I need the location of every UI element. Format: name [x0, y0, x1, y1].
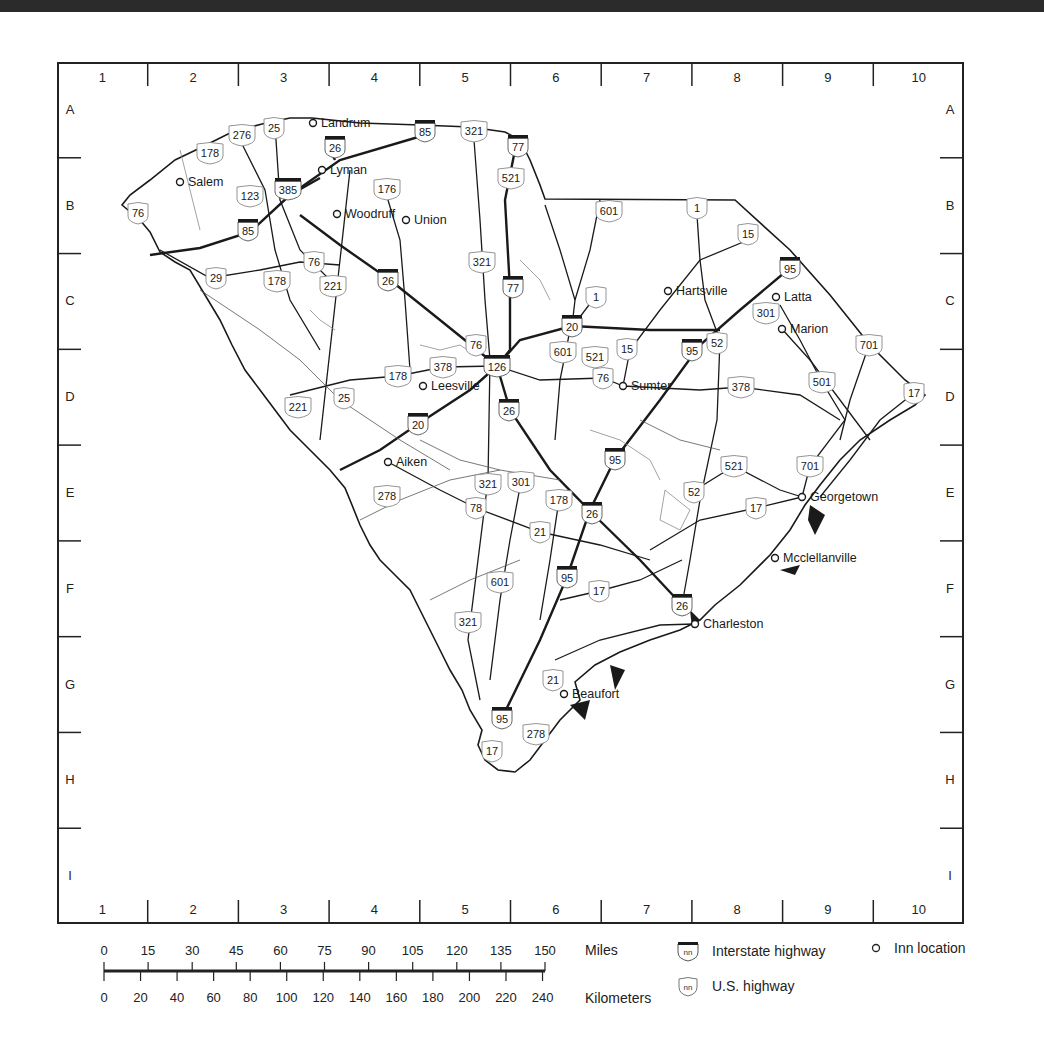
inn-marker[interactable]: Salem: [177, 175, 224, 189]
scale-miles-tick-label: 75: [317, 943, 331, 958]
svg-text:521: 521: [502, 172, 520, 184]
us-highway-shield: 17: [589, 581, 609, 603]
svg-text:Charleston: Charleston: [703, 617, 763, 631]
inn-marker[interactable]: Latta: [773, 290, 812, 304]
us-highway-shield: 521: [721, 456, 747, 478]
us-highway-shield: 178: [264, 271, 290, 293]
svg-text:1: 1: [694, 202, 700, 214]
svg-text:Sumter: Sumter: [631, 379, 671, 393]
us-highway-shield: 301: [753, 303, 779, 325]
us-highway-shield: 176: [374, 179, 400, 201]
inn-marker[interactable]: Mcclellanville: [772, 551, 857, 565]
us-highway-shield: 278: [374, 486, 400, 508]
svg-text:21: 21: [534, 526, 546, 538]
svg-text:21: 21: [547, 674, 559, 686]
scale-km-tick-label: 100: [276, 990, 298, 1005]
svg-text:95: 95: [686, 345, 698, 357]
svg-text:178: 178: [201, 147, 219, 159]
us-highway-shield: 78: [466, 498, 486, 520]
svg-text:Union: Union: [414, 213, 447, 227]
svg-text:20: 20: [566, 321, 578, 333]
inn-marker[interactable]: Charleston: [692, 617, 764, 631]
us-highway-shield: 321: [469, 252, 495, 274]
kilometers-unit-label: Kilometers: [585, 990, 651, 1006]
inn-marker[interactable]: Hartsville: [665, 284, 728, 298]
scale-miles-tick-label: 15: [141, 943, 155, 958]
svg-text:29: 29: [210, 272, 222, 284]
inn-marker[interactable]: Union: [403, 213, 447, 227]
highway-shields: 2762532117817652112376601115321291787622…: [128, 118, 924, 763]
inn-marker[interactable]: Aiken: [385, 455, 428, 469]
interstate-shield: 95: [557, 566, 577, 588]
scale-km-tick-label: 140: [349, 990, 371, 1005]
us-highway-shield: 521: [498, 168, 524, 190]
scale-km-tick-label: 60: [206, 990, 220, 1005]
inn-marker[interactable]: Beaufort: [561, 687, 620, 701]
us-highway-shield: 178: [385, 366, 411, 388]
scale-miles-tick-label: 135: [490, 943, 512, 958]
interstate-shield: 26: [325, 136, 345, 158]
svg-text:301: 301: [512, 476, 530, 488]
svg-text:15: 15: [742, 228, 754, 240]
us-highway-shield: 52: [684, 482, 704, 504]
svg-text:76: 76: [308, 256, 320, 268]
inn-marker[interactable]: Georgetown: [799, 490, 879, 504]
us-highway-shield: 501: [809, 372, 835, 394]
legend-us-highway: nn U.S. highway: [676, 975, 794, 997]
us-highway-shield: 321: [461, 121, 487, 143]
svg-text:95: 95: [609, 454, 621, 466]
scale-km-tick-label: 200: [459, 990, 481, 1005]
svg-text:178: 178: [550, 494, 568, 506]
us-highway-shield: 1: [687, 198, 707, 220]
interstate-shield: 20: [408, 413, 428, 435]
svg-text:178: 178: [389, 370, 407, 382]
inn-marker[interactable]: Lyman: [319, 163, 368, 177]
us-highway-shield: 221: [320, 276, 346, 298]
scale-miles-tick-label: 150: [534, 943, 556, 958]
scale-miles-tick-label: 60: [273, 943, 287, 958]
svg-text:25: 25: [268, 122, 280, 134]
svg-text:15: 15: [621, 343, 633, 355]
scale-miles-tick-label: 90: [361, 943, 375, 958]
svg-text:Lyman: Lyman: [330, 163, 367, 177]
svg-text:26: 26: [676, 600, 688, 612]
us-highway-shield: 76: [593, 368, 613, 390]
interstate-shield: 95: [605, 448, 625, 470]
scale-km-tick-label: 40: [170, 990, 184, 1005]
interstate-shield-icon: nn: [676, 940, 700, 962]
svg-text:378: 378: [732, 381, 750, 393]
us-highway-shield: 221: [285, 397, 311, 419]
us-highway-shield: 17: [746, 498, 766, 520]
us-highway-shield: 17: [904, 383, 924, 405]
svg-text:176: 176: [378, 183, 396, 195]
scale-km-tick-label: 160: [385, 990, 407, 1005]
inn-marker[interactable]: Woodruff: [334, 207, 396, 221]
us-highway-shield: 1: [586, 287, 606, 309]
svg-text:52: 52: [688, 486, 700, 498]
svg-text:95: 95: [496, 713, 508, 725]
legend-inn: Inn location: [870, 940, 966, 956]
svg-text:20: 20: [412, 419, 424, 431]
us-highway-shield: 76: [304, 252, 324, 274]
scale-miles-tick-label: 45: [229, 943, 243, 958]
us-highway-shield: 76: [128, 203, 148, 225]
us-highway-shield: 25: [264, 118, 284, 140]
svg-text:1: 1: [593, 291, 599, 303]
svg-text:178: 178: [268, 275, 286, 287]
scale-km-tick-label: 180: [422, 990, 444, 1005]
scale-km-tick-label: 220: [495, 990, 517, 1005]
interstate-shield: 26: [672, 594, 692, 616]
map-canvas: 2762532117817652112376601115321291787622…: [0, 0, 1044, 1063]
svg-text:Woodruff: Woodruff: [345, 207, 396, 221]
svg-text:501: 501: [813, 376, 831, 388]
interstate-shield: 95: [682, 339, 702, 361]
interstate-shield: 26: [499, 399, 519, 421]
us-highway-shield: 701: [797, 456, 823, 478]
svg-text:521: 521: [586, 351, 604, 363]
us-highway-shield: 378: [430, 357, 456, 379]
inn-marker[interactable]: Leesville: [420, 379, 480, 393]
svg-text:17: 17: [593, 585, 605, 597]
svg-text:Landrum: Landrum: [321, 116, 370, 130]
svg-text:26: 26: [329, 142, 341, 154]
svg-text:701: 701: [860, 339, 878, 351]
